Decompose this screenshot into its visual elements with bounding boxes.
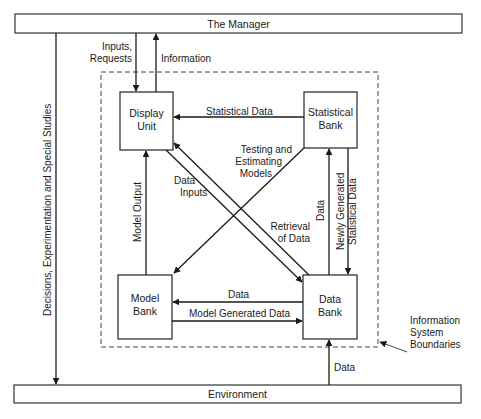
- environment-data-label: Data: [334, 362, 355, 374]
- testing-line-1: Testing and: [220, 144, 292, 156]
- model-bank-line-1: Model: [118, 292, 172, 305]
- model-generated-data-label: Model Generated Data: [189, 308, 290, 320]
- testing-line-2: Estimating: [220, 156, 292, 168]
- display-unit-line-2: Unit: [120, 120, 173, 133]
- inputs-requests-line-1: Inputs,: [80, 41, 132, 53]
- statistical-bank-line-1: Statistical: [304, 106, 357, 119]
- model-bank-line-2: Bank: [118, 305, 172, 318]
- data-bank-line-1: Data: [303, 293, 357, 306]
- retrieval-line-2: of Data: [262, 233, 310, 245]
- boundary-leader-line: [380, 342, 407, 352]
- data-inputs-line-2: Inputs: [174, 187, 207, 199]
- statistical-data-label: Statistical Data: [206, 106, 273, 118]
- newly-generated-line-2: Statistical Data: [347, 173, 359, 250]
- data-to-statistical-bank-label: Data: [315, 200, 327, 221]
- model-output-label: Model Output: [132, 182, 144, 242]
- information-system-boundaries-label: Information System Boundaries: [410, 315, 461, 351]
- data-inputs-line-1: Data: [174, 175, 207, 187]
- inputs-requests-label: Inputs, Requests: [80, 41, 132, 65]
- environment-label: Environment: [14, 388, 461, 400]
- boundary-line-2: System: [410, 327, 461, 339]
- statistical-bank-line-2: Bank: [304, 119, 357, 132]
- information-label: Information: [161, 53, 211, 65]
- retrieval-line-1: Retrieval: [262, 221, 310, 233]
- display-unit-label: Display Unit: [120, 107, 173, 133]
- manager-label: The Manager: [15, 18, 462, 30]
- retrieval-of-data-label: Retrieval of Data: [262, 221, 310, 245]
- data-inputs-label: Data Inputs: [174, 175, 207, 199]
- inputs-requests-line-2: Requests: [80, 53, 132, 65]
- diagram-canvas: [0, 0, 481, 419]
- testing-line-3: Models: [220, 168, 292, 180]
- data-to-model-bank-label: Data: [228, 289, 249, 301]
- boundary-line-3: Boundaries: [410, 339, 461, 351]
- boundary-line-1: Information: [410, 315, 461, 327]
- model-bank-label: Model Bank: [118, 292, 172, 318]
- data-bank-label: Data Bank: [303, 293, 357, 319]
- display-unit-line-1: Display: [120, 107, 173, 120]
- newly-generated-label: Newly Generated Statistical Data: [335, 173, 359, 250]
- testing-estimating-models-label: Testing and Estimating Models: [220, 144, 292, 180]
- newly-generated-line-1: Newly Generated: [335, 173, 347, 250]
- data-bank-line-2: Bank: [303, 306, 357, 319]
- decisions-label: Decisions, Experimentation and Special S…: [42, 104, 54, 316]
- statistical-bank-label: Statistical Bank: [304, 106, 357, 132]
